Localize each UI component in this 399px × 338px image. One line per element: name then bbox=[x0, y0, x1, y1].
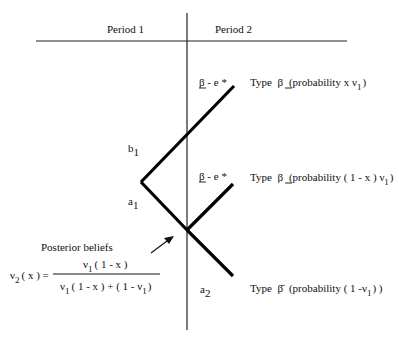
payoff-label-top: β - e * bbox=[199, 76, 227, 88]
node-label-a1: a1 bbox=[128, 195, 138, 211]
period-1-label: Period 1 bbox=[107, 23, 144, 35]
outcome-3: Type β̄ (probability ( 1 -ν1) ) bbox=[250, 282, 383, 298]
svg-text:Type β (probabilit: Type β (probability x ν1) bbox=[250, 76, 366, 92]
branch-a2 bbox=[187, 230, 233, 276]
branch-a1 bbox=[141, 182, 187, 230]
branch-upper-period2 bbox=[187, 184, 233, 230]
svg-text:Type β (probabilit: Type β (probability ( 1 - x ) ν1) bbox=[250, 171, 394, 187]
payoff-label-middle: β - e * bbox=[199, 170, 227, 182]
posterior-numerator: ν1( 1 - x ) bbox=[83, 258, 128, 274]
outcome-2: Type β (probability ( 1 - x ) ν1) bbox=[250, 171, 394, 187]
outcome-1: Type β (probability x ν1) bbox=[250, 76, 366, 92]
arrow-icon bbox=[151, 236, 174, 253]
node-label-b1: b1 bbox=[128, 142, 139, 158]
period-2-label: Period 2 bbox=[215, 23, 252, 35]
svg-text:Type β̄ (probabili: Type β̄ (probability ( 1 -ν1) ) bbox=[250, 282, 383, 298]
posterior-lhs: ν2( x ) = bbox=[10, 269, 49, 285]
posterior-denominator: ν1( 1 - x ) + ( 1 - ν1) bbox=[60, 280, 152, 296]
node-label-a2: a2 bbox=[200, 283, 210, 299]
game-tree-diagram: Period 1 Period 2 b1 a1 a2 β - e * β - e… bbox=[0, 0, 399, 338]
posterior-beliefs-formula: Posterior beliefs ν2( x ) = ν1( 1 - x ) … bbox=[10, 241, 160, 296]
posterior-title: Posterior beliefs bbox=[41, 241, 113, 253]
